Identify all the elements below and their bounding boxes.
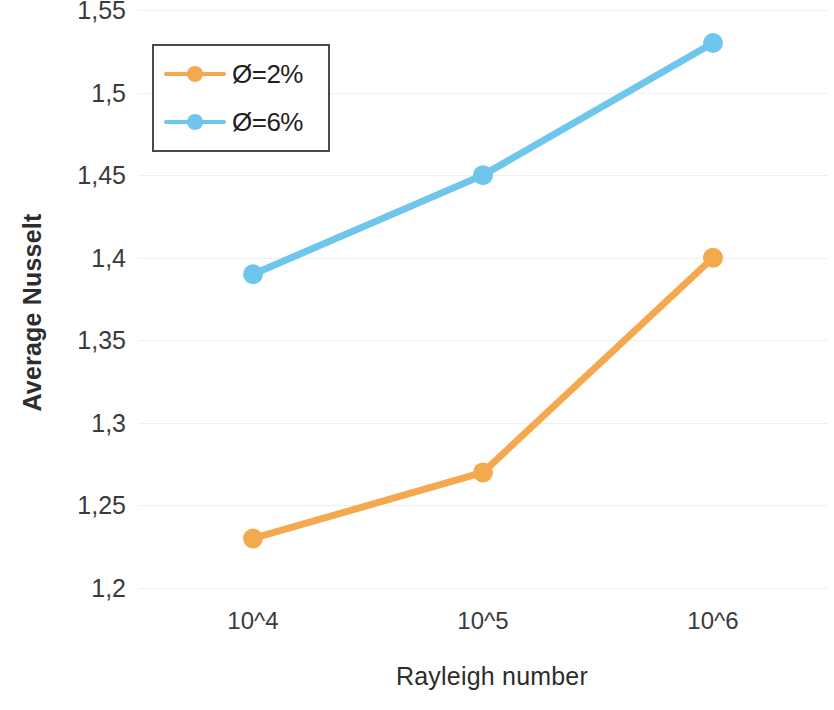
series-line — [253, 258, 713, 539]
legend-label: Ø=6% — [232, 107, 303, 138]
legend: Ø=2%Ø=6% — [152, 44, 330, 152]
data-point-marker — [703, 248, 723, 268]
legend-item[interactable]: Ø=6% — [154, 100, 332, 144]
x-axis-tick-label: 10^6 — [633, 607, 793, 635]
chart-container: Average Nusselt 1,551,51,451,41,351,31,2… — [0, 0, 834, 710]
gridline — [138, 588, 828, 589]
data-point-marker — [703, 33, 723, 53]
data-point-marker — [243, 264, 263, 284]
x-axis-tick-label: 10^4 — [173, 607, 333, 635]
data-point-marker — [243, 528, 263, 548]
x-axis-title: Rayleigh number — [150, 662, 834, 691]
data-point-marker — [473, 165, 493, 185]
legend-marker-icon — [164, 111, 226, 133]
legend-label: Ø=2% — [232, 59, 303, 90]
legend-marker-icon — [164, 63, 226, 85]
legend-item[interactable]: Ø=2% — [154, 52, 332, 96]
x-axis-tick-label: 10^5 — [403, 607, 563, 635]
data-point-marker — [473, 462, 493, 482]
